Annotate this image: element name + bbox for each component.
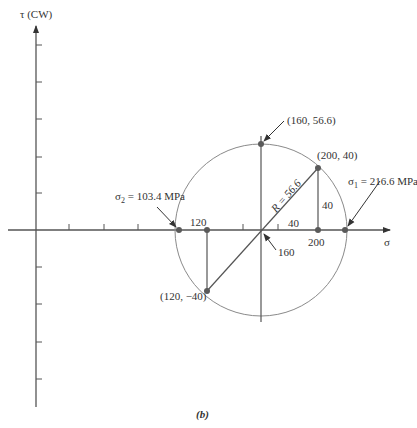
sigma-axis-label: σ bbox=[384, 236, 390, 248]
point-sigma2 bbox=[176, 227, 182, 233]
leader-arrow-top bbox=[264, 121, 284, 141]
label-dx: 40 bbox=[288, 217, 300, 229]
point-200 bbox=[315, 227, 321, 233]
label-radius: R = 56.6 bbox=[268, 177, 304, 215]
label-sigma2: σ2 = 103.4 MPa bbox=[115, 190, 185, 205]
leader-arrow-center bbox=[264, 234, 276, 250]
label-200: 200 bbox=[308, 236, 325, 248]
point-top bbox=[258, 141, 264, 147]
label-point-a: (200, 40) bbox=[317, 149, 358, 162]
mohr-circle-diagram: τ (CW) σ (160, 56.6) (200, 40) (120, −40… bbox=[0, 0, 417, 428]
label-sigma1: σ1 = 216.6 MPa bbox=[348, 175, 417, 190]
figure-caption: (b) bbox=[196, 408, 209, 421]
label-dy: 40 bbox=[322, 199, 334, 211]
point-200-40 bbox=[315, 165, 321, 171]
label-center: 160 bbox=[278, 246, 295, 258]
label-point-b: (120, −40) bbox=[160, 290, 207, 303]
leader-arrow-sigma2 bbox=[157, 207, 176, 227]
point-sigma1 bbox=[342, 227, 348, 233]
tau-axis bbox=[36, 26, 42, 407]
tau-axis-label: τ (CW) bbox=[20, 8, 53, 21]
label-120: 120 bbox=[190, 216, 207, 228]
leader-arrow-sigma1 bbox=[348, 181, 380, 226]
label-top-point: (160, 56.6) bbox=[287, 114, 336, 127]
